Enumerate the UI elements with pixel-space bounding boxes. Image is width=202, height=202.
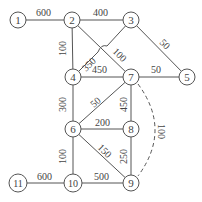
edge-7-9-dashed (138, 84, 155, 176)
node-8: 8 (123, 121, 139, 137)
weight-6-8: 200 (95, 117, 110, 128)
node-label: 11 (13, 178, 23, 189)
weight-7-9: 100 (156, 124, 167, 139)
edge-2-4 (72, 20, 73, 77)
weight-4-7: 450 (92, 64, 107, 75)
node-2: 2 (64, 12, 80, 28)
node-label: 2 (69, 14, 75, 26)
weight-11-10: 600 (37, 171, 52, 182)
node-5: 5 (179, 69, 195, 85)
weight-6-9: 150 (96, 142, 114, 160)
node-label: 9 (128, 177, 134, 189)
weight-2-3: 400 (93, 7, 108, 18)
node-9: 9 (123, 175, 139, 191)
node-1: 1 (10, 12, 26, 28)
node-label: 6 (70, 123, 76, 135)
node-label: 1 (15, 14, 21, 26)
weight-7-8: 450 (118, 97, 129, 112)
weight-1-2: 600 (36, 7, 51, 18)
node-10: 10 (64, 174, 82, 192)
node-6: 6 (65, 121, 81, 137)
weight-2-4: 100 (57, 41, 68, 56)
node-4: 4 (65, 69, 81, 85)
node-label: 7 (128, 71, 134, 83)
network-diagram: 600 400 100 100 350 50 450 50 300 50 450… (0, 0, 202, 202)
weights-layer: 600 400 100 100 350 50 450 50 300 50 450… (36, 7, 172, 182)
weight-2-7: 100 (111, 46, 129, 64)
weight-6-10: 100 (57, 149, 68, 164)
node-label: 5 (184, 71, 190, 83)
weight-7-5: 50 (151, 64, 161, 75)
node-label: 8 (128, 123, 134, 135)
weight-10-9: 500 (94, 171, 109, 182)
node-label: 4 (70, 71, 76, 83)
node-label: 3 (128, 14, 134, 26)
node-label: 10 (68, 178, 78, 189)
node-3: 3 (123, 12, 139, 28)
weight-4-6: 300 (57, 97, 68, 112)
weight-8-9: 250 (118, 149, 129, 164)
graph-canvas: 600 400 100 100 350 50 450 50 300 50 450… (0, 0, 202, 202)
node-11: 11 (9, 174, 27, 192)
weight-6-7: 50 (88, 95, 103, 110)
node-7: 7 (123, 69, 139, 85)
